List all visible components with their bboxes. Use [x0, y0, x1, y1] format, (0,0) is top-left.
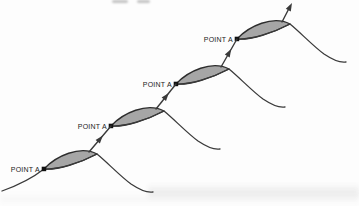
up-right-arrowhead-icon [225, 49, 231, 57]
point-a-marker [42, 167, 47, 172]
point-a-label: POINT A [11, 166, 40, 173]
point-a-label: POINT A [143, 81, 172, 88]
wave-unit-4: POINT A [204, 21, 346, 62]
overlapping-waves-diagram: POINT A POINT A POINT A POINT A [0, 0, 359, 206]
point-a-label: POINT A [204, 36, 233, 43]
overlap-region [176, 66, 229, 84]
overlap-region [237, 21, 290, 39]
overlap-region [44, 151, 97, 169]
up-right-arrowhead-icon [286, 3, 292, 11]
wave-unit-2: POINT A [78, 108, 220, 149]
figure-canvas: POINT A POINT A POINT A POINT A [0, 0, 359, 206]
wave-unit-3: POINT A [143, 66, 285, 107]
point-a-label: POINT A [78, 123, 107, 130]
overlap-region [111, 108, 164, 126]
wave-unit-1: POINT A [2, 151, 153, 192]
